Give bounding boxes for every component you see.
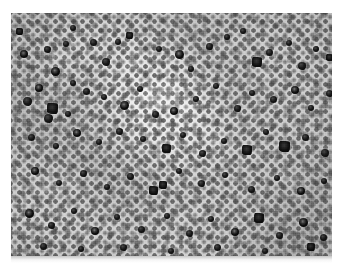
plate-bottom-shadow <box>11 256 332 263</box>
histopathology-micrograph-image <box>11 13 332 256</box>
vignette-overlay <box>11 13 332 256</box>
figure-root <box>0 0 341 267</box>
